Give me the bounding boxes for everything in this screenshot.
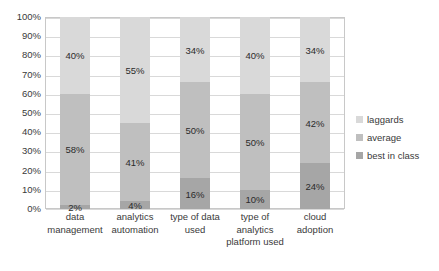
x-axis-category-label: cloudadoption (279, 211, 351, 236)
y-axis: 100%90%80%70%60%50%40%30%20%10%0% (0, 17, 41, 209)
bar-segment[interactable]: 34% (180, 17, 210, 82)
gridline (46, 209, 344, 210)
y-axis-tick-label: 80% (0, 50, 41, 60)
bar-group[interactable]: 16%50%34% (180, 17, 210, 209)
bar-group[interactable]: 24%42%34% (300, 17, 330, 209)
bar-segment[interactable]: 55% (120, 17, 150, 123)
bar-segment[interactable]: 40% (60, 17, 90, 94)
bar-segment-value-label: 50% (180, 125, 210, 136)
bar-segment[interactable]: 42% (300, 82, 330, 163)
bar-segment-value-label: 10% (240, 194, 270, 205)
legend-item[interactable]: laggards (356, 110, 436, 128)
bar-segment[interactable]: 58% (60, 94, 90, 205)
bar-column: 2%58%40% (60, 17, 90, 209)
bar-segment[interactable]: 16% (180, 178, 210, 209)
chart-legend: laggardsaveragebest in class (356, 110, 436, 164)
bar-segment-value-label: 41% (120, 156, 150, 167)
y-axis-tick-label: 50% (0, 108, 41, 118)
bar-group[interactable]: 2%58%40% (60, 17, 90, 209)
legend-item[interactable]: average (356, 128, 436, 146)
stacked-bar-chart: 100%90%80%70%60%50%40%30%20%10%0% 2%58%4… (0, 0, 439, 271)
x-axis-category-label-line: adoption (279, 224, 351, 237)
legend-item-label: best in class (367, 150, 419, 161)
y-axis-tick-label: 20% (0, 166, 41, 176)
bar-segment-value-label: 34% (300, 44, 330, 55)
bar-segment[interactable]: 24% (300, 163, 330, 209)
legend-item[interactable]: best in class (356, 146, 436, 164)
x-axis-labels: datamanagementanalyticsautomationtype of… (45, 211, 345, 269)
bar-segment[interactable]: 50% (240, 94, 270, 190)
bar-segment-value-label: 55% (120, 64, 150, 75)
bar-segment[interactable]: 34% (300, 17, 330, 82)
bar-column: 16%50%34% (180, 17, 210, 209)
bars-layer: 2%58%40%4%41%55%16%50%34%10%50%40%24%42%… (45, 17, 345, 209)
legend-item-label: average (367, 132, 401, 143)
bar-segment-value-label: 16% (180, 188, 210, 199)
legend-swatch-icon (356, 116, 363, 123)
y-axis-tick-label: 70% (0, 70, 41, 80)
bar-segment[interactable]: 2% (60, 205, 90, 209)
bar-segment[interactable]: 4% (120, 201, 150, 209)
bar-column: 24%42%34% (300, 17, 330, 209)
bar-segment[interactable]: 10% (240, 190, 270, 209)
y-axis-tick-label: 90% (0, 31, 41, 41)
bar-segment-value-label: 42% (300, 117, 330, 128)
y-axis-tick-label: 30% (0, 146, 41, 156)
bar-column: 10%50%40% (240, 17, 270, 209)
bar-segment-value-label: 58% (60, 144, 90, 155)
bar-segment-value-label: 34% (180, 44, 210, 55)
bar-segment-value-label: 24% (300, 180, 330, 191)
bar-segment-value-label: 50% (240, 136, 270, 147)
y-axis-tick-label: 60% (0, 89, 41, 99)
bar-column: 4%41%55% (120, 17, 150, 209)
bar-group[interactable]: 10%50%40% (240, 17, 270, 209)
bar-segment-value-label: 40% (60, 50, 90, 61)
x-axis-category-label-line: platform used (219, 236, 291, 249)
y-axis-tick-label: 10% (0, 185, 41, 195)
bar-segment[interactable]: 40% (240, 17, 270, 94)
y-axis-tick-label: 0% (0, 204, 41, 214)
bar-segment[interactable]: 50% (180, 82, 210, 178)
legend-swatch-icon (356, 152, 363, 159)
legend-item-label: laggards (367, 114, 403, 125)
y-axis-tick-label: 100% (0, 12, 41, 22)
y-axis-tick-label: 40% (0, 127, 41, 137)
x-axis-category-label-line: cloud (279, 211, 351, 224)
bar-segment-value-label: 40% (240, 50, 270, 61)
legend-swatch-icon (356, 134, 363, 141)
bar-segment[interactable]: 41% (120, 123, 150, 202)
bar-group[interactable]: 4%41%55% (120, 17, 150, 209)
